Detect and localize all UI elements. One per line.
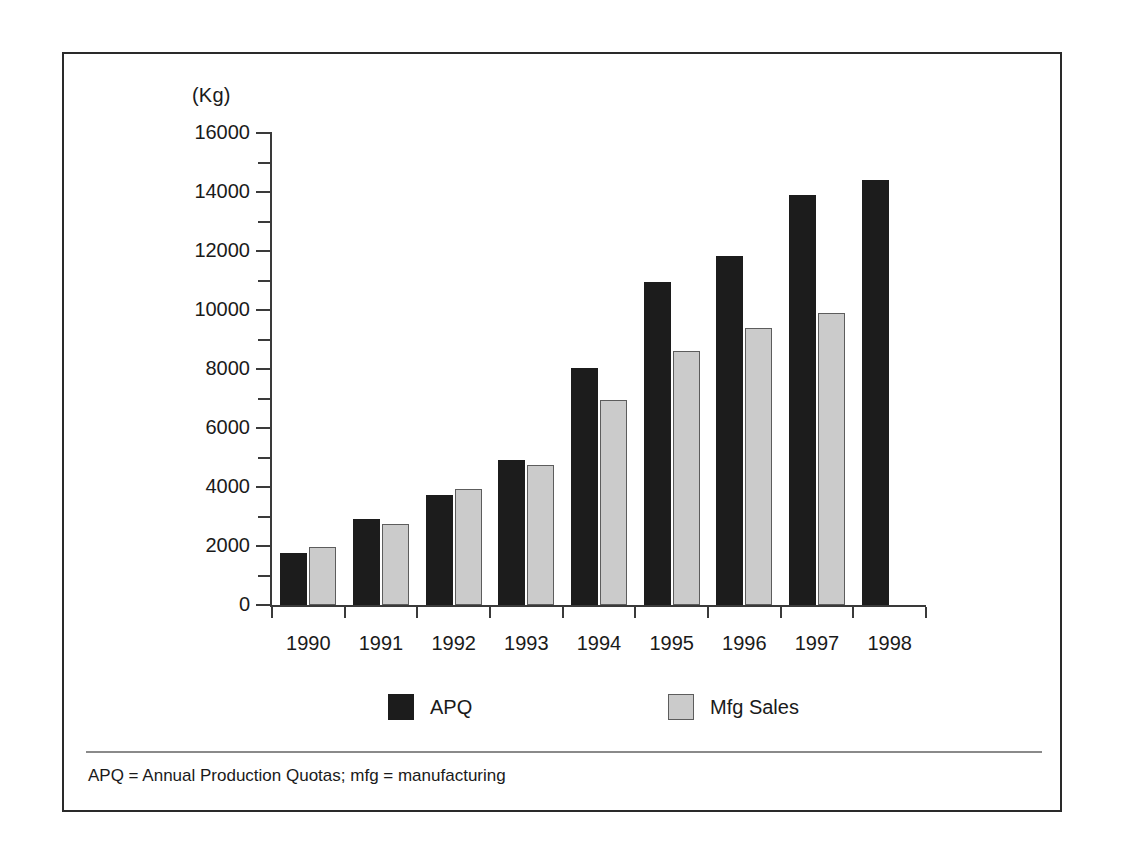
bar-apq-1992 — [426, 495, 453, 605]
bar-mfg-sales-1994 — [600, 400, 627, 605]
bar-apq-1990 — [280, 553, 307, 605]
bar-mfg-sales-1993 — [527, 465, 554, 605]
legend-label: APQ — [430, 696, 472, 719]
bar-apq-1991 — [353, 519, 380, 605]
bar-mfg-sales-1992 — [455, 489, 482, 605]
bar-mfg-sales-1997 — [818, 313, 845, 605]
bar-mfg-sales-1995 — [673, 351, 700, 605]
legend-swatch-icon — [668, 694, 694, 720]
bar-apq-1996 — [716, 256, 743, 605]
figure-frame: (Kg) 02000400060008000100001200014000160… — [62, 52, 1062, 812]
legend-item-mfg-sales: Mfg Sales — [668, 694, 799, 720]
bar-apq-1993 — [498, 460, 525, 605]
bar-mfg-sales-1990 — [309, 547, 336, 605]
chart-plot-area: (Kg) 02000400060008000100001200014000160… — [64, 54, 1064, 814]
bar-apq-1997 — [789, 195, 816, 605]
x-axis-category-label: 1998 — [845, 632, 935, 655]
bar-apq-1995 — [644, 282, 671, 605]
legend-item-apq: APQ — [388, 694, 472, 720]
legend-label: Mfg Sales — [710, 696, 799, 719]
bar-apq-1998 — [862, 180, 889, 605]
footnote-text: APQ = Annual Production Quotas; mfg = ma… — [88, 766, 506, 786]
footnote-divider — [86, 751, 1042, 753]
bar-apq-1994 — [571, 368, 598, 605]
bar-mfg-sales-1996 — [745, 328, 772, 605]
bar-mfg-sales-1991 — [382, 524, 409, 605]
chart-legend: APQMfg Sales — [270, 694, 930, 734]
legend-swatch-icon — [388, 694, 414, 720]
